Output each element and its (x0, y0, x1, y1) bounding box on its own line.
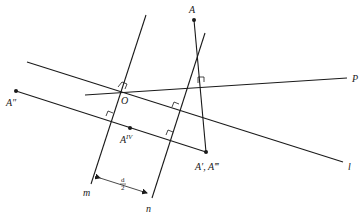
right-angle-marker-n-l (172, 102, 179, 107)
label-a-prime-triple: A′, A‴ (194, 161, 219, 172)
label-o: O (121, 95, 128, 106)
label-l: l (348, 161, 351, 172)
label-distance-denominator: 2 (121, 184, 125, 192)
point-a-prime (204, 150, 208, 154)
label-a-double-prime: A″ (5, 97, 17, 108)
line-m (91, 15, 146, 184)
label-p: P (351, 73, 358, 84)
line-l (27, 62, 343, 162)
geometry-diagram: A A″ O AIV A′, A‴ P l m n d 2 (0, 0, 361, 220)
label-a: A (188, 4, 196, 15)
label-n: n (146, 203, 151, 214)
label-m: m (83, 187, 90, 198)
label-a-iv: AIV (119, 133, 133, 145)
segment-a2-a1 (16, 91, 206, 152)
point-a-iv (128, 126, 132, 130)
segment-a-a1 (194, 20, 206, 152)
right-angle-marker-m-a2 (106, 111, 113, 116)
label-distance-numerator: d (121, 176, 125, 184)
point-a-double-prime (14, 89, 18, 93)
point-a (192, 18, 196, 22)
